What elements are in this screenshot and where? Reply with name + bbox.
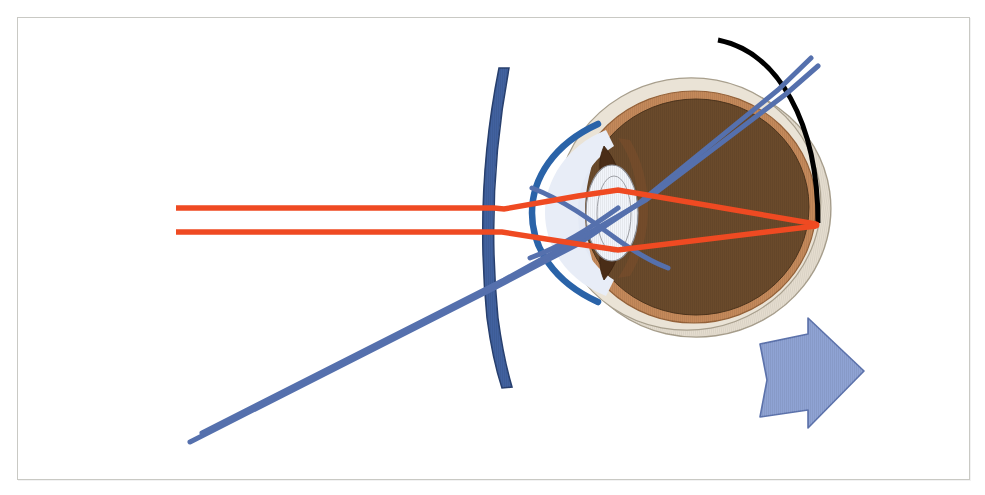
figure-page bbox=[0, 0, 985, 495]
corrective-lens-concave bbox=[483, 68, 512, 388]
figure-frame bbox=[17, 17, 970, 480]
eyeball-elongation-arrow bbox=[760, 318, 864, 428]
eye-optics-diagram bbox=[18, 18, 971, 481]
retinal-focus-point bbox=[813, 222, 820, 229]
